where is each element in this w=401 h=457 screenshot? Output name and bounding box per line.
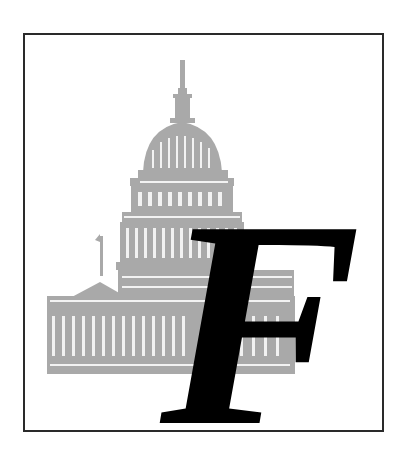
dropcap-letter: F [160, 175, 361, 457]
statue-spire [180, 60, 185, 92]
flagpole [100, 236, 103, 276]
